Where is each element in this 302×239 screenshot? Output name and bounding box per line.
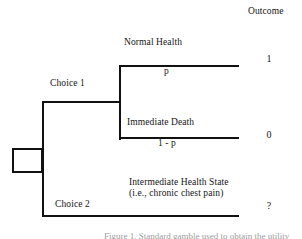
decision-node-square[interactable] (12, 148, 43, 173)
immediate-death-label: Immediate Death (127, 117, 194, 128)
intermediate-health-state-label: Intermediate Health State (i.e., chronic… (129, 177, 234, 198)
normal-health-branch-line (119, 65, 239, 67)
choice-1-label: Choice 1 (50, 78, 85, 89)
outcome-column-header: Outcome (248, 6, 284, 17)
immediate-death-branch-line (119, 137, 239, 139)
probability-one-minus-p-label: 1 - p (158, 138, 176, 149)
decision-tree-diagram: Outcome Normal Health p Choice 1 Immedia… (0, 0, 302, 239)
outcome-value-normal-health: 1 (262, 54, 276, 65)
choice-2-branch-line (42, 215, 239, 217)
root-trunk-line (42, 101, 44, 217)
probability-p-label: p (164, 66, 169, 77)
choice-1-branch-line (42, 101, 121, 103)
choice-2-label: Choice 2 (55, 199, 90, 210)
figure-caption-fragment: Figure 1. Standard gamble used to obtain… (104, 231, 300, 239)
chance-node-spine-line (119, 65, 121, 140)
normal-health-label: Normal Health (124, 37, 182, 48)
outcome-value-intermediate-state: ? (262, 201, 276, 212)
outcome-value-immediate-death: 0 (262, 130, 276, 141)
